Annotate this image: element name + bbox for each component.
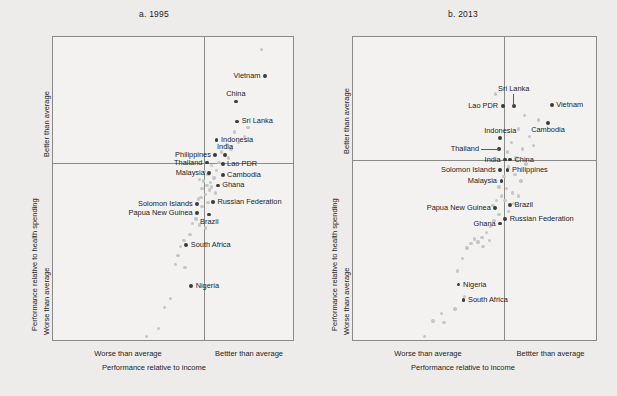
point-label: China (515, 156, 534, 163)
point-label: Ghana (222, 182, 244, 189)
data-point-background (465, 246, 468, 249)
data-point-background (517, 194, 520, 197)
data-point-highlighted (195, 202, 199, 206)
data-point-background (423, 335, 426, 338)
point-label: South Africa (191, 241, 231, 248)
plot-frame-a (52, 36, 294, 341)
data-point-background (453, 307, 456, 310)
data-point-background (194, 217, 197, 220)
data-point-background (519, 179, 522, 182)
label-leader-line (513, 94, 514, 106)
data-point-background (497, 185, 500, 188)
point-label: Papua New Guinea (427, 205, 491, 212)
data-point-background (188, 233, 191, 236)
data-point-background (500, 194, 503, 197)
point-label: Russian Federation (510, 215, 574, 222)
point-label: Cambodia (531, 127, 565, 134)
data-point-background (205, 184, 208, 187)
point-label: Malaysia (176, 170, 205, 177)
point-label: Solomon Islands (441, 166, 496, 173)
panel-a: a. 1995VietnamChinaSri LankaIndonesiaInd… (0, 0, 308, 396)
x-axis-right-label-a: Bettter than average (204, 349, 294, 358)
data-point-background (511, 191, 514, 194)
data-point-highlighted (189, 284, 193, 288)
y-axis-bottom-label-a: Worse than average (42, 268, 51, 335)
data-point-background (476, 240, 479, 243)
data-point-background (208, 188, 211, 191)
data-point-highlighted (500, 179, 504, 183)
point-label: Philippines (512, 166, 548, 173)
data-point-highlighted (221, 173, 225, 177)
data-point-background (202, 179, 205, 182)
data-point-background (473, 237, 476, 240)
data-point-background (506, 150, 509, 153)
figure-root: a. 1995VietnamChinaSri LankaIndonesiaInd… (0, 0, 617, 396)
y-axis-title-a: Performance relative to health spending (30, 198, 39, 331)
data-point-highlighted (501, 104, 505, 108)
panel-title-b: b. 2013 (309, 9, 617, 19)
point-label: Malaysia (468, 177, 497, 184)
horizontal-divider-b (352, 160, 597, 161)
data-point-background (246, 126, 249, 129)
data-point-highlighted (462, 298, 466, 302)
point-label: Sri Lanka (498, 85, 529, 92)
data-point-background (182, 239, 185, 242)
point-label: India (485, 156, 501, 163)
data-point-background (214, 191, 217, 194)
label-leader-line (481, 149, 499, 150)
point-label: Vietnam (556, 101, 583, 108)
data-point-highlighted (550, 103, 554, 107)
data-point-background (212, 176, 215, 179)
data-point-background (481, 245, 484, 248)
point-label: Russian Federation (217, 199, 281, 206)
x-axis-left-label-a: Worse than average (52, 349, 204, 358)
data-point-background (488, 239, 491, 242)
point-label: Brazil (200, 218, 218, 225)
point-label: Cambodia (227, 171, 261, 178)
point-label: Nigeria (196, 282, 219, 289)
point-label: Papua New Guinea (129, 209, 193, 216)
point-label: Thailand (174, 159, 202, 166)
point-label: Sri Lanka (242, 118, 273, 125)
panel-b: b. 2013Sri LankaVietnamLao PDRCambodiaIn… (309, 0, 617, 396)
data-point-background (497, 213, 500, 216)
panel-title-a: a. 1995 (0, 9, 308, 19)
data-point-background (456, 269, 459, 272)
data-point-highlighted (211, 200, 215, 204)
data-point-highlighted (221, 162, 225, 166)
y-axis-bottom-label-b: Worse than average (342, 268, 351, 335)
data-point-highlighted (195, 211, 199, 215)
data-point-highlighted (216, 184, 220, 188)
point-label: Brazil (515, 202, 533, 209)
point-label: Lao PDR (468, 102, 498, 109)
horizontal-divider-a (52, 163, 294, 164)
data-point-background (517, 127, 520, 130)
data-point-background (206, 201, 209, 204)
data-point-highlighted (215, 138, 219, 142)
point-label: Indonesia (484, 127, 516, 134)
data-point-highlighted (223, 153, 227, 157)
vertical-divider-a (204, 36, 205, 341)
data-point-background (442, 321, 445, 324)
data-point-highlighted (546, 121, 550, 125)
point-label: Ghana (474, 220, 496, 227)
data-point-background (494, 92, 497, 95)
point-label: South Africa (468, 296, 508, 303)
x-axis-left-label-b: Worse than average (352, 349, 504, 358)
data-point-background (521, 147, 524, 150)
point-label: Solomon Islands (138, 200, 193, 207)
y-axis-top-label-b: Better than average (342, 88, 351, 154)
y-axis-top-label-a: Better than average (42, 91, 51, 157)
data-point-background (502, 175, 505, 178)
data-point-background (179, 245, 182, 248)
data-point-background (469, 242, 472, 245)
point-label: Thailand (451, 145, 479, 152)
point-label: Lao PDR (227, 160, 257, 167)
x-axis-title-b: Performance relative to income (309, 363, 617, 372)
point-label: India (217, 144, 233, 151)
data-point-background (431, 319, 434, 322)
data-point-background (197, 197, 200, 200)
data-point-background (176, 254, 179, 257)
data-point-background (537, 118, 540, 121)
y-axis-title-b: Performance relative to health spending (330, 198, 339, 331)
